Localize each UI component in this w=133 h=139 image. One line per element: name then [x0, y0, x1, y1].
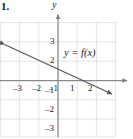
x-tick-label-2: 2: [88, 83, 93, 93]
y-axis-label: y: [52, 0, 56, 10]
y-tick-label-neg1: –1: [45, 85, 54, 95]
problem-number: 1.: [1, 0, 9, 12]
x-tick-label-neg3: –3: [13, 83, 22, 93]
y-tick-label-neg2: –2: [45, 104, 54, 114]
y-tick-label-neg3: –3: [45, 123, 54, 133]
function-label: y = f(x): [64, 47, 96, 58]
y-tick-label-3: 3: [50, 36, 55, 46]
x-tick-label-neg2: –2: [32, 83, 41, 93]
y-tick-label-2: 2: [50, 55, 55, 65]
coordinate-plane-graph: [0, 0, 133, 139]
x-tick-label-1: 1: [70, 83, 75, 93]
